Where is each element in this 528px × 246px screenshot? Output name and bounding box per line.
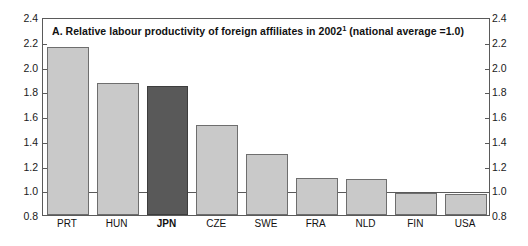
y-tick-label-left-0: 2.4 [23, 13, 38, 24]
y-axis-tick [43, 168, 47, 169]
y-axis-right: 2.42.22.01.81.61.41.21.00.8 [492, 18, 526, 216]
y-axis-tick [485, 69, 489, 70]
y-tick-label-right-4: 1.6 [492, 112, 507, 123]
y-tick-label-right-3: 1.8 [492, 87, 507, 98]
y-axis-tick [485, 93, 489, 94]
bar-series [43, 19, 489, 215]
y-tick-label-left-2: 2.0 [23, 63, 38, 74]
bar-cze[interactable] [196, 125, 238, 215]
x-tick-label-fin: FIN [390, 218, 440, 229]
x-tick-label-prt: PRT [42, 218, 92, 229]
y-axis-left: 2.42.22.01.81.61.41.21.00.8 [4, 18, 38, 216]
bar-usa[interactable] [445, 194, 487, 215]
y-axis-tick [485, 44, 489, 45]
x-axis-category-labels: PRTHUNJPNCZESWEFRANLDFINUSA [42, 218, 490, 234]
bar-fin[interactable] [395, 193, 437, 215]
plot-area: A. Relative labour productivity of forei… [42, 18, 490, 216]
y-tick-label-left-6: 1.2 [23, 162, 38, 173]
y-axis-tick [43, 69, 47, 70]
x-tick-label-nld: NLD [341, 218, 391, 229]
y-tick-label-right-0: 2.4 [492, 13, 507, 24]
bar-prt[interactable] [47, 47, 89, 215]
y-tick-label-right-2: 2.0 [492, 63, 507, 74]
y-axis-tick [485, 168, 489, 169]
y-tick-label-right-5: 1.4 [492, 137, 507, 148]
y-axis-tick [485, 192, 489, 193]
y-axis-tick [43, 143, 47, 144]
y-axis-tick [43, 192, 47, 193]
x-tick-label-jpn: JPN [142, 218, 192, 229]
x-tick-label-swe: SWE [241, 218, 291, 229]
bar-hun[interactable] [97, 83, 139, 215]
y-axis-tick [485, 118, 489, 119]
bar-fra[interactable] [296, 178, 338, 215]
x-tick-label-hun: HUN [92, 218, 142, 229]
x-tick-label-fra: FRA [291, 218, 341, 229]
y-axis-tick [43, 44, 47, 45]
x-tick-label-usa: USA [440, 218, 490, 229]
y-tick-label-left-1: 2.2 [23, 38, 38, 49]
bar-jpn[interactable] [147, 86, 189, 215]
y-tick-label-left-3: 1.8 [23, 87, 38, 98]
y-tick-label-left-7: 1.0 [23, 186, 38, 197]
y-tick-label-left-8: 0.8 [23, 211, 38, 222]
y-tick-label-right-8: 0.8 [492, 211, 507, 222]
y-tick-label-right-1: 2.2 [492, 38, 507, 49]
bar-swe[interactable] [246, 154, 288, 215]
y-tick-label-right-6: 1.2 [492, 162, 507, 173]
bar-nld[interactable] [346, 179, 388, 215]
x-tick-label-cze: CZE [191, 218, 241, 229]
y-tick-label-left-5: 1.4 [23, 137, 38, 148]
y-axis-tick [43, 93, 47, 94]
y-tick-label-right-7: 1.0 [492, 186, 507, 197]
y-axis-tick [43, 118, 47, 119]
chart-figure: 2.42.22.01.81.61.41.21.00.8 2.42.22.01.8… [0, 0, 528, 246]
y-axis-tick [485, 143, 489, 144]
y-tick-label-left-4: 1.6 [23, 112, 38, 123]
